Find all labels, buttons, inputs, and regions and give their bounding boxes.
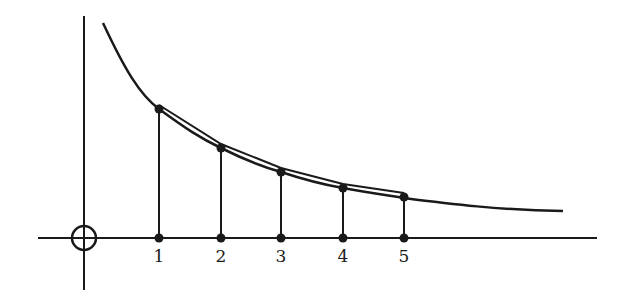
curve [103, 23, 563, 211]
x-label-5: 5 [399, 246, 410, 266]
x-label-2: 2 [216, 246, 227, 266]
x-label-3: 3 [276, 246, 287, 266]
x-label-4: 4 [338, 246, 349, 266]
x-label-1: 1 [154, 246, 165, 266]
trapezoid-curve-diagram: 1 2 3 4 5 [0, 0, 627, 308]
